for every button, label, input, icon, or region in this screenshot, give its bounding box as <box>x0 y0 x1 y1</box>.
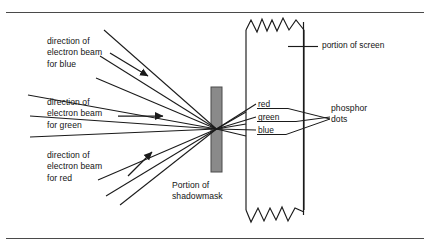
label-portion-of-screen: portion of screen <box>322 40 384 51</box>
label-shadowmask: Portion of shadowmask <box>172 180 223 203</box>
label-beam-blue: direction of electron beam for blue <box>47 36 102 70</box>
label-phosphor-dots: phosphor dots <box>331 103 367 126</box>
label-beam-green: direction of electron beam for green <box>47 97 102 131</box>
arrow-beam-blue <box>110 53 148 76</box>
torn-edge-bottom-icon <box>246 207 304 222</box>
beam-group-blue <box>96 30 217 129</box>
crt-shadowmask-figure: direction of electron beam for blue dire… <box>0 0 430 249</box>
label-beam-red: direction of electron beam for red <box>47 150 102 184</box>
label-channel-red: red <box>258 99 270 110</box>
torn-edge-top-icon <box>246 18 304 32</box>
label-channel-green: green <box>258 112 279 123</box>
arrow-beam-red <box>128 152 152 176</box>
label-channel-blue: blue <box>258 125 274 136</box>
